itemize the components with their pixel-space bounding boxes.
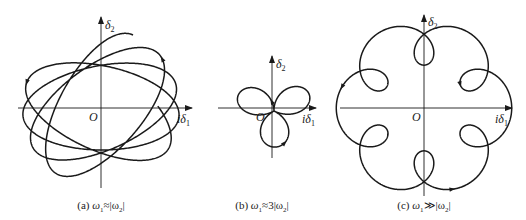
direction-arrow-icon bbox=[457, 81, 463, 88]
panel-c-caption: (c) ω1≫|ω2| bbox=[397, 200, 450, 214]
panel-a-direction-arrows bbox=[24, 55, 166, 86]
panel-c-direction-arrows bbox=[339, 81, 464, 192]
panel-b-x-axis-label: iδ1 bbox=[302, 113, 315, 128]
panel-b-caption: (b) ω1≈3|ω2| bbox=[235, 200, 289, 214]
panel-a-origin-label: O bbox=[89, 111, 98, 123]
panel-c-x-axis-label: iδ1 bbox=[495, 113, 508, 128]
panel-b-trajectory bbox=[237, 87, 309, 148]
panel-c-y-axis-label: δ2 bbox=[428, 16, 438, 31]
panel-b bbox=[218, 56, 316, 158]
panel-b-y-axis-label: δ2 bbox=[276, 58, 286, 73]
panel-a-x-axis-label: iδ1 bbox=[177, 113, 190, 128]
panel-c-origin-label: O bbox=[412, 111, 421, 123]
panel-a-caption: (a) ω1≈|ω2| bbox=[77, 200, 124, 214]
panel-c bbox=[336, 15, 512, 196]
panel-b-origin-label: O bbox=[256, 111, 265, 123]
panel-a bbox=[18, 17, 192, 188]
panel-a-y-axis-label: δ2 bbox=[105, 19, 115, 34]
